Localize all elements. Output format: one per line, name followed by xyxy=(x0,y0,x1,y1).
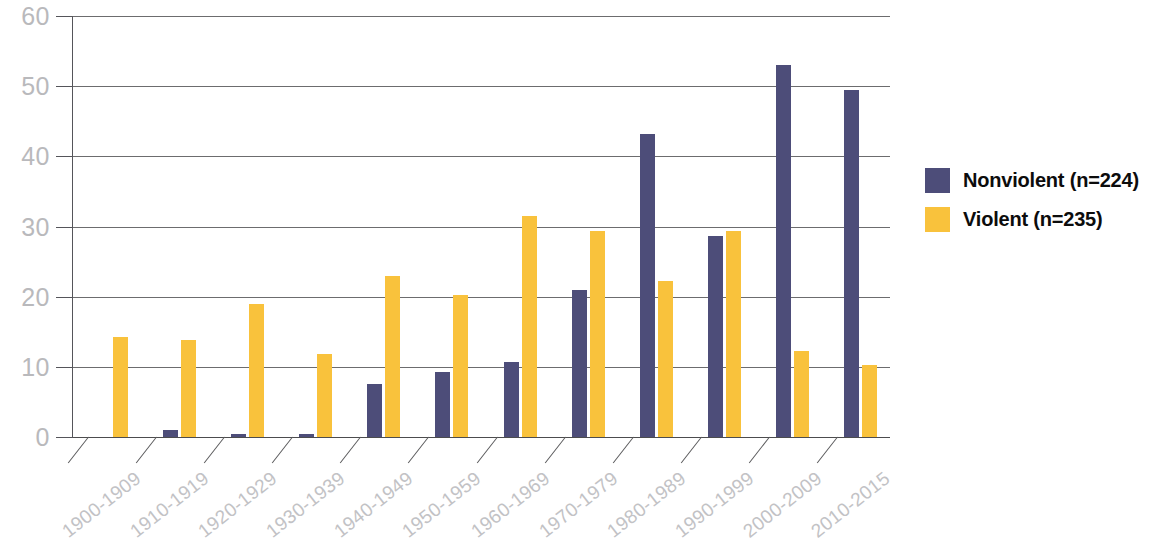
bar[interactable] xyxy=(113,337,128,437)
bar-group xyxy=(72,16,140,437)
x-tick-mark xyxy=(817,437,838,464)
legend-swatch-icon xyxy=(925,168,950,193)
legend-label: Violent (n=235) xyxy=(963,208,1102,231)
legend-swatch-icon xyxy=(925,207,950,232)
x-tick-mark xyxy=(272,437,293,464)
bar-group xyxy=(208,16,276,437)
bar[interactable] xyxy=(504,362,519,437)
bar[interactable] xyxy=(708,236,723,437)
x-tick-mark xyxy=(408,437,429,464)
bar[interactable] xyxy=(367,384,382,437)
bar-group xyxy=(754,16,822,437)
bar[interactable] xyxy=(572,290,587,437)
x-tick-mark xyxy=(136,437,157,464)
y-tick-label-60: 60 xyxy=(21,4,50,29)
bar[interactable] xyxy=(435,372,450,437)
y-tick-mark-40 xyxy=(56,156,73,157)
bar[interactable] xyxy=(590,231,605,437)
y-tick-label-10: 10 xyxy=(21,354,50,379)
bar-group xyxy=(140,16,208,437)
bar[interactable] xyxy=(726,231,741,437)
y-tick-mark-50 xyxy=(56,86,73,87)
x-tick-mark xyxy=(67,437,88,464)
bar-group xyxy=(686,16,754,437)
legend-label: Nonviolent (n=224) xyxy=(963,169,1139,192)
y-tick-mark-30 xyxy=(56,227,73,228)
x-tick-mark xyxy=(204,437,225,464)
bar[interactable] xyxy=(844,90,859,437)
x-tick-mark xyxy=(681,437,702,464)
bar-group xyxy=(345,16,413,437)
y-tick-mark-20 xyxy=(56,297,73,298)
bar[interactable] xyxy=(453,295,468,437)
bar-group xyxy=(413,16,481,437)
bar[interactable] xyxy=(181,340,196,437)
bar-group xyxy=(481,16,549,437)
bar[interactable] xyxy=(317,354,332,437)
legend-item[interactable]: Violent (n=235) xyxy=(925,207,1139,232)
x-tick-mark xyxy=(613,437,634,464)
y-tick-label-50: 50 xyxy=(21,74,50,99)
legend-item[interactable]: Nonviolent (n=224) xyxy=(925,168,1139,193)
bar[interactable] xyxy=(522,216,537,437)
bar-group xyxy=(549,16,617,437)
bar-group xyxy=(617,16,685,437)
bar[interactable] xyxy=(862,365,877,437)
bar[interactable] xyxy=(385,276,400,437)
x-tick-mark xyxy=(749,437,770,464)
bar[interactable] xyxy=(794,351,809,437)
x-axis: 1900-19091910-19191920-19291930-19391940… xyxy=(0,437,1163,545)
plot-area xyxy=(72,16,890,437)
y-tick-label-20: 20 xyxy=(21,284,50,309)
x-tick-mark xyxy=(545,437,566,464)
bar-group xyxy=(277,16,345,437)
y-tick-mark-60 xyxy=(56,16,73,17)
x-tick-mark xyxy=(476,437,497,464)
y-tick-mark-10 xyxy=(56,367,73,368)
y-tick-label-40: 40 xyxy=(21,144,50,169)
bar[interactable] xyxy=(163,430,178,437)
bar[interactable] xyxy=(640,134,655,437)
bar-chart: 0102030405060 1900-19091910-19191920-192… xyxy=(0,0,1163,545)
x-tick-mark xyxy=(340,437,361,464)
bar-group xyxy=(822,16,890,437)
bar[interactable] xyxy=(249,304,264,437)
bar[interactable] xyxy=(776,65,791,437)
chart-legend: Nonviolent (n=224)Violent (n=235) xyxy=(925,168,1139,246)
y-tick-label-30: 30 xyxy=(21,214,50,239)
bar[interactable] xyxy=(658,281,673,437)
